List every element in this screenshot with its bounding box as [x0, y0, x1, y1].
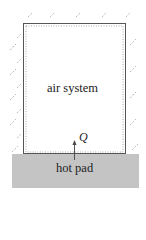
- pad-label: hot pad: [56, 161, 93, 176]
- system-label: air system: [47, 81, 98, 96]
- heat-label: Q: [79, 130, 88, 145]
